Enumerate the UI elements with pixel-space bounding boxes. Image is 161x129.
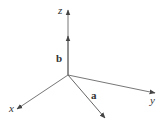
x-axis-label: x [8, 102, 14, 114]
vector-b-label: b [56, 52, 62, 64]
vector-a-label: a [91, 89, 97, 101]
z-axis-label: z [57, 4, 63, 16]
coordinate-diagram: z x y b a [0, 0, 161, 129]
x-axis [17, 75, 68, 109]
y-axis-label: y [149, 94, 155, 106]
